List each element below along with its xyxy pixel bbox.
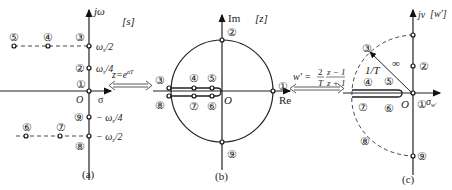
mapping-2-num-a: 2	[318, 67, 323, 77]
tick-ws-quarter: ωs/4	[96, 63, 113, 75]
panel-c-w-plane: ③ ② ① ⑨ ④ ⑤ ⑦ ⑥ ⑧ 1/T ∞ jv [w'] σw' O (c…	[343, 8, 447, 186]
point-4	[192, 86, 196, 90]
label-point-7: ⑦	[358, 101, 368, 113]
sigma-w-axis-label: σw'	[426, 96, 437, 108]
label-point-4: ④	[189, 72, 199, 84]
mapping-2-den-b: z + 1	[326, 78, 346, 88]
point-7	[58, 134, 62, 138]
jw-axis-label: jω	[92, 5, 105, 17]
infinity-label: ∞	[392, 57, 400, 69]
point-9	[220, 140, 224, 144]
label-point-6: ⑥	[22, 121, 32, 133]
re-axis-label: Re	[279, 94, 291, 106]
label-point-2: ②	[75, 62, 85, 74]
point-8	[87, 134, 91, 138]
point-6	[210, 94, 214, 98]
point-1	[271, 89, 275, 93]
label-point-7: ⑦	[56, 121, 66, 133]
label-point-7: ⑦	[189, 100, 199, 112]
point-9	[87, 115, 91, 119]
tick-neg-ws-quarter: − ωs/4	[96, 112, 122, 124]
label-point-8: ⑧	[75, 140, 85, 152]
sigma-axis-label: σ	[98, 94, 104, 105]
label-point-5: ⑤	[384, 75, 394, 87]
caption-b: (b)	[215, 170, 228, 183]
point-2	[220, 38, 224, 42]
mapping-2-den-a: T	[318, 78, 324, 88]
point-2	[87, 66, 91, 70]
label-point-3: ③	[155, 74, 165, 86]
point-3	[167, 86, 171, 90]
point-1	[411, 91, 415, 95]
label-point-1: ①	[76, 78, 86, 90]
point-5	[12, 44, 16, 48]
point-8	[167, 94, 171, 98]
mapping-1-formula: z=eσT	[111, 69, 134, 80]
panel-b-z-plane: ② ③ ④ ⑤ ⑧ ⑦ ⑥ ① ⑨ Im [z] Re O (b)	[153, 12, 291, 183]
label-point-9: ⑨	[227, 148, 237, 160]
mapping-2-num-b: z − 1	[326, 67, 346, 77]
label-point-9: ⑨	[417, 150, 427, 162]
z-plane-label: [z]	[255, 12, 268, 24]
label-point-3: ③	[75, 31, 85, 43]
point-1	[87, 89, 91, 93]
label-point-4: ④	[363, 76, 373, 88]
label-point-9: ⑨	[74, 111, 84, 123]
s-plane-label: [s]	[122, 15, 135, 27]
label-point-2: ②	[419, 60, 429, 72]
label-point-1: ①	[278, 80, 288, 92]
mapping-2-lhs: w' =	[293, 71, 311, 82]
label-point-8: ⑧	[155, 99, 165, 111]
label-point-8: ⑧	[360, 135, 370, 147]
jv-axis-label: jv	[416, 9, 426, 20]
label-point-6: ⑥	[384, 102, 394, 114]
label-point-3: ③	[362, 42, 372, 54]
label-point-4: ④	[43, 31, 53, 43]
point-3	[87, 44, 91, 48]
mapping-arrow-s-to-z: z=eσT	[109, 69, 152, 90]
caption-a: (a)	[82, 168, 95, 181]
mapping-arrow-z-to-w: w' = 2 T z − 1 z + 1	[290, 67, 346, 93]
origin-label-a: O	[76, 94, 83, 105]
point-4	[46, 44, 50, 48]
point-7	[192, 94, 196, 98]
label-point-2: ②	[227, 26, 237, 38]
diagram-canvas: ⑤ ④ ③ ② ① ⑨ ⑧ ⑥ ⑦ jω [s] σ O ωs/2 ωs/4 −…	[0, 0, 452, 190]
panel-a-s-plane: ⑤ ④ ③ ② ① ⑨ ⑧ ⑥ ⑦ jω [s] σ O ωs/2 ωs/4 −…	[0, 5, 135, 181]
label-point-5: ⑤	[207, 72, 217, 84]
origin-label-c: O	[401, 98, 409, 110]
point-9	[411, 154, 415, 158]
origin-label-b: O	[224, 94, 232, 106]
caption-c: (c)	[402, 173, 415, 186]
point-2	[411, 64, 415, 68]
label-point-6: ⑥	[207, 100, 217, 112]
point-top	[411, 33, 415, 37]
point-6	[24, 134, 28, 138]
tick-neg-ws-half: − ωs/2	[96, 131, 122, 143]
label-point-5: ⑤	[9, 31, 19, 43]
w-plane-label: [w']	[430, 8, 447, 19]
radius-label: 1/T	[365, 64, 381, 76]
tick-ws-half: ωs/2	[96, 41, 113, 53]
im-axis-label: Im	[228, 12, 241, 24]
point-5	[210, 86, 214, 90]
